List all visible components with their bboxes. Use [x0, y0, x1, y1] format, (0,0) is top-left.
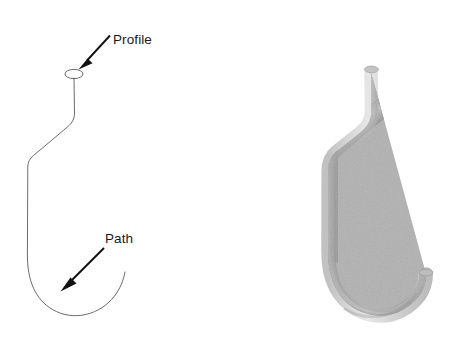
profile-circle-icon: [65, 69, 83, 78]
path-label: Path: [105, 231, 133, 246]
wireframe-sweep-diagram: Profile Path: [27, 32, 152, 316]
shaded-3d-hook: [310, 55, 450, 340]
profile-arrowhead-icon: [79, 59, 93, 70]
hook-top-end-cap: [365, 66, 379, 73]
profile-label: Profile: [113, 32, 152, 47]
hook-tip-end-cap: [419, 269, 433, 276]
profile-leader-line: [87, 36, 110, 61]
path-leader-line: [70, 248, 104, 282]
path-leader-arrow: [61, 248, 105, 292]
profile-leader-arrow: [79, 36, 111, 70]
path-arrowhead-icon: [61, 278, 77, 292]
sweep-illustration-figure: Profile Path: [0, 0, 453, 349]
path-curve: [27, 78, 125, 316]
